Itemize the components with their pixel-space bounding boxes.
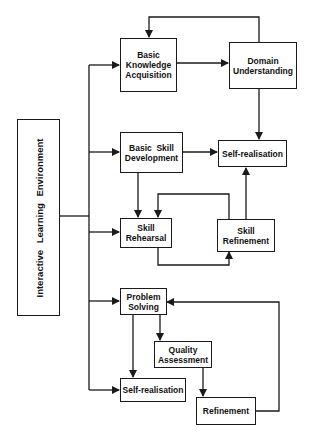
node-skill-rehearsal: Skill Rehearsal — [120, 218, 172, 248]
node-label-line: Development — [125, 153, 178, 163]
node-label-line: Basic Skill — [125, 143, 178, 153]
node-label-line: Basic — [125, 50, 171, 60]
node-self-realisation-bottom: Self-realisation — [120, 378, 186, 402]
node-label-line: Understanding — [233, 66, 293, 76]
arrow-refinement-to-rehearsal — [158, 194, 229, 219]
node-label-line: Refinement — [203, 406, 249, 416]
node-label-line: Solving — [126, 302, 160, 312]
node-label-line: Skill — [126, 223, 167, 233]
node-label-line: Quality — [158, 345, 208, 355]
node-problem-solving: Problem Solving — [120, 288, 167, 315]
node-label-line: Self-realisation — [222, 149, 283, 159]
node-basic-knowledge-acquisition: Basic Knowledge Acquisition — [120, 38, 177, 92]
node-label-line: Skill — [223, 226, 269, 236]
node-label-line: Domain — [233, 56, 293, 66]
node-refinement: Refinement — [196, 397, 256, 425]
node-self-realisation-top: Self-realisation — [218, 140, 287, 167]
node-label-line: Problem — [126, 292, 160, 302]
node-label-line: Rehearsal — [126, 233, 167, 243]
node-domain-understanding: Domain Understanding — [229, 42, 297, 89]
node-basic-skill-development: Basic Skill Development — [120, 132, 183, 173]
node-label-line: Refinement — [223, 236, 269, 246]
node-quality-assessment: Quality Assessment — [154, 341, 212, 368]
node-label-line: Self-realisation — [123, 385, 184, 395]
node-skill-refinement: Skill Refinement — [217, 219, 275, 252]
root-label: Interactive Learning Environment — [33, 138, 44, 297]
learning-environment-diagram: Interactive Learning Environment Basic K… — [0, 0, 311, 437]
interactive-learning-environment-box: Interactive Learning Environment — [17, 119, 60, 316]
node-label-line: Acquisition — [125, 70, 171, 80]
node-label-line: Knowledge — [125, 60, 171, 70]
node-label-line: Assessment — [158, 355, 208, 365]
